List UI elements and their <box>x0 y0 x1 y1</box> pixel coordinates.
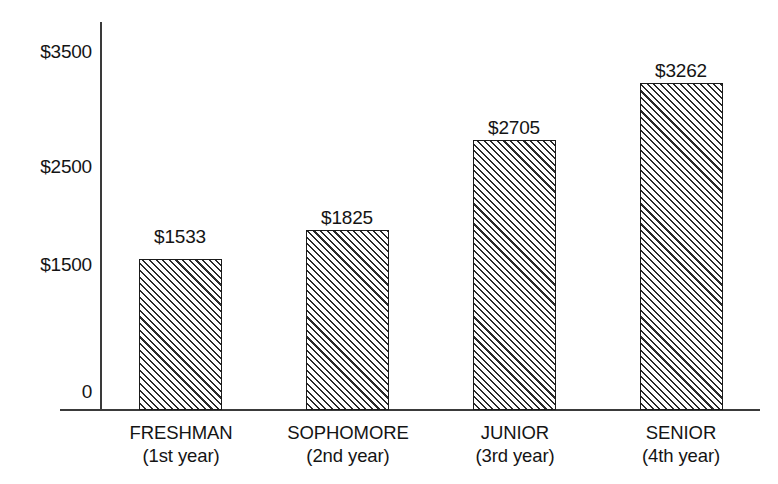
category-sublabel: (1st year) <box>100 444 262 467</box>
bar-value-label-freshman: $1533 <box>125 226 235 247</box>
category-label-junior: JUNIOR (3rd year) <box>434 421 596 467</box>
category-sublabel: (3rd year) <box>434 444 596 467</box>
category-name: FRESHMAN <box>100 421 262 444</box>
category-label-freshman: FRESHMAN (1st year) <box>100 421 262 467</box>
category-sublabel: (4th year) <box>600 444 762 467</box>
bar-junior <box>473 140 556 410</box>
bar-chart: $3500 $2500 $1500 0 $1533 FRESHMAN (1st … <box>0 0 778 484</box>
y-axis-tick-label: 0 <box>4 382 92 401</box>
category-name: SOPHOMORE <box>262 421 434 444</box>
bar-value-label-junior: $2705 <box>459 117 569 138</box>
bar-senior <box>640 83 723 410</box>
category-label-sophomore: SOPHOMORE (2nd year) <box>262 421 434 467</box>
category-sublabel: (2nd year) <box>262 444 434 467</box>
bar-value-label-senior: $3262 <box>626 60 736 81</box>
y-axis-line <box>100 22 102 411</box>
bar-freshman <box>139 259 222 410</box>
bar-value-label-sophomore: $1825 <box>292 207 402 228</box>
y-axis-tick-label: $2500 <box>4 157 92 176</box>
y-axis-tick-label: $3500 <box>4 42 92 61</box>
category-name: JUNIOR <box>434 421 596 444</box>
category-label-senior: SENIOR (4th year) <box>600 421 762 467</box>
category-name: SENIOR <box>600 421 762 444</box>
y-axis-tick-label: $1500 <box>4 255 92 274</box>
bar-sophomore <box>306 230 389 410</box>
